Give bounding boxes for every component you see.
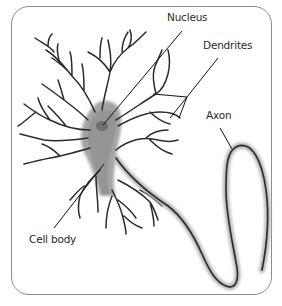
nucleus-label: Nucleus: [167, 11, 207, 23]
dendrites-branch-1: [153, 94, 187, 97]
dendrites-branch-3: [179, 97, 187, 118]
axon-shape: [112, 145, 268, 292]
cell-body-label: Cell body: [29, 233, 76, 245]
axon-label: Axon: [206, 109, 231, 121]
dendrites-branch-2: [170, 97, 187, 118]
nucleus-leader-line: [103, 31, 182, 125]
dendrites-leader-line: [187, 58, 218, 97]
nucleus-shape: [96, 121, 108, 131]
axon-leader-line: [220, 128, 232, 149]
dendrites-label: Dendrites: [203, 39, 252, 51]
